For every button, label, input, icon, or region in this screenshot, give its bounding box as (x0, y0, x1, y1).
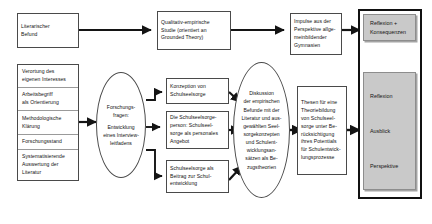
node-text-line: Theoriebildung (301, 107, 343, 115)
ausblick-item-perspektive[interactable]: Perspektive (370, 162, 398, 170)
node-text-line: Gymnasien (294, 42, 338, 50)
grundlagen-segment-forschungsstand[interactable]: Forschungsstand (18, 135, 78, 150)
grundlagen-segment-auswertung[interactable]: Systematisierende Auswertung der Literat… (18, 150, 78, 180)
ausblick-item-ausblick[interactable]: Ausblick (370, 127, 390, 135)
node-text-line: meinbildender (294, 34, 338, 42)
node-text-line: ihres Potentials (301, 138, 343, 146)
node-text-line: Perspektive allge- (294, 26, 338, 34)
node-text-line: und Schulent- (246, 138, 277, 146)
arrow-fragen-to-schulentwicklung (146, 150, 162, 176)
node-text-line: zugstheorien (247, 163, 276, 171)
node-konzeption[interactable]: Konzeption von Schulseelsorge (166, 78, 229, 104)
node-schulseelsorgeperson[interactable]: Die Schulseelsorge- person: Schulseel- s… (166, 111, 229, 149)
node-text-line: Schulseelsorge (170, 91, 225, 99)
node-text-line: Arbeitsbegriff (22, 91, 74, 99)
node-text-line: Befunde mit der (244, 106, 280, 114)
node-forschungsfragen[interactable]: Forschungs- fragen: Entwicklung eines In… (96, 72, 146, 178)
node-text-line: Diskussion (249, 89, 274, 97)
node-text-line: Qualitativ-empirische (161, 19, 227, 27)
node-text-line: Befund (21, 31, 75, 39)
node-text-line: Systematisierende (22, 153, 74, 161)
node-thesen[interactable]: Thesen für eine Theoriebildung von Schul… (297, 86, 347, 175)
node-text-line: Angebot (170, 138, 225, 146)
node-text-line: Literarischer (21, 23, 75, 31)
node-text-line: entwicklung (170, 180, 225, 188)
node-schulentwicklung[interactable]: Schulseelsorge als Beitrag zur Schul- en… (166, 160, 229, 193)
node-text-line: Schulseelsorge als (170, 165, 225, 173)
node-text-line: für Schulentwick- (301, 146, 343, 154)
node-text-line: Klärung (22, 123, 74, 131)
node-text-line: Auswertung der (22, 161, 74, 169)
node-text-line: Entwicklung (107, 123, 134, 131)
arrow-fragen-to-konzeption (146, 92, 162, 100)
node-grundlagen[interactable]: Verortung des eigenen Interesses Arbeits… (17, 64, 79, 181)
node-ausblick-group[interactable]: Reflexion Ausblick Perspektive (363, 72, 416, 190)
node-reflexion-konsequenzen[interactable]: Reflexion + Konsequenzen (363, 14, 416, 41)
node-text-line: eines Interview- (103, 131, 139, 139)
node-text-line: sorge als personales (170, 130, 225, 138)
node-text-line: leitfadens (110, 139, 132, 147)
node-text-line: wicklungsan- (247, 146, 276, 154)
node-text-line: als Orientierung (22, 99, 74, 107)
node-text-line: Studie (orientiert an (161, 27, 227, 35)
node-text-line: sorgekonzepten (243, 130, 279, 138)
node-text-line: Literatur und aus- (242, 114, 282, 122)
node-text-line: Beitrag zur Schul- (170, 173, 225, 181)
node-text-line: von Schulseel- (301, 115, 343, 123)
grundlagen-segment-verortung[interactable]: Verortung des eigenen Interesses (18, 65, 78, 88)
node-text-line: der empirischen (243, 97, 279, 105)
node-text-line: lungsprozesse (301, 154, 343, 162)
node-diskussion[interactable]: Diskussion der empirischen Befunde mit d… (233, 62, 290, 198)
node-text-line: Konsequenzen (370, 28, 406, 36)
grundlagen-segment-arbeitsbegriff[interactable]: Arbeitsbegriff als Orientierung (18, 88, 78, 111)
node-text-line: eigenen Interesses (22, 76, 74, 84)
node-text-line: fragen: (113, 111, 129, 119)
node-text-line: person: Schulseel- (170, 122, 225, 130)
diagram-canvas: Literarischer Befund Verortung des eigen… (0, 0, 432, 224)
grundlagen-segment-methodologische-klaerung[interactable]: Methodologische Klärung (18, 111, 78, 134)
node-text-line: Verortung des (22, 68, 74, 76)
node-text-line: Konzeption von (170, 83, 225, 91)
node-text-line: Reflexion + (370, 19, 397, 27)
node-impulse[interactable]: Impulse aus der Perspektive allge- meinb… (290, 13, 342, 55)
node-qualitativ-empirische-studie[interactable]: Qualitativ-empirische Studie (orientiert… (157, 11, 231, 50)
node-literarischer-befund[interactable]: Literarischer Befund (17, 13, 79, 48)
ausblick-item-reflexion[interactable]: Reflexion (370, 92, 392, 100)
node-text-line: Methodologische (22, 115, 74, 123)
node-text-line: Impulse aus der (294, 18, 338, 26)
node-text-line: Literatur (22, 169, 74, 177)
node-text-line: Grounded Theory) (161, 34, 227, 42)
node-text-line: sorge unter Be- (301, 123, 343, 131)
node-text-line: rücksichtigung (301, 131, 343, 139)
node-text-line: Die Schulseelsorge- (170, 114, 225, 122)
node-text-line: Forschungs- (107, 103, 135, 111)
node-text-line: sätzen als Be- (245, 154, 277, 162)
node-text-line: Forschungsstand (22, 138, 74, 146)
node-text-line: Thesen für eine (301, 99, 343, 107)
node-text-line: gewählten Seel- (243, 122, 280, 130)
